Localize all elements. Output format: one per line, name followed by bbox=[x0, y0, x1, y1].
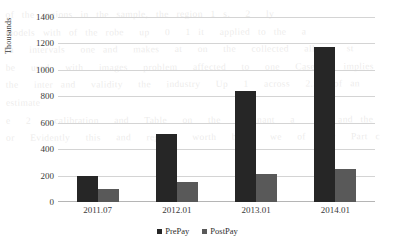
bar-prepay[interactable] bbox=[235, 91, 256, 202]
y-axis-tick-label: 0 bbox=[14, 197, 54, 207]
legend-swatch-icon bbox=[202, 229, 207, 234]
bar-groups bbox=[58, 17, 375, 202]
x-axis-labels: 2011.072012.012013.012014.01 bbox=[58, 205, 375, 215]
x-axis-tick-label: 2013.01 bbox=[217, 205, 296, 215]
y-axis-tick-label: 1000 bbox=[14, 65, 54, 75]
y-axis-tick-label: 1200 bbox=[14, 38, 54, 48]
bar-group bbox=[296, 17, 375, 202]
bar-postpay[interactable] bbox=[256, 174, 277, 202]
bar-prepay[interactable] bbox=[314, 47, 335, 202]
legend-item-prepay[interactable]: PrePay bbox=[157, 226, 189, 236]
y-axis-title: Thousands bbox=[4, 18, 13, 54]
x-axis-tick-label: 2011.07 bbox=[58, 205, 137, 215]
bar-postpay[interactable] bbox=[98, 189, 119, 202]
bar-group bbox=[217, 17, 296, 202]
bar-postpay[interactable] bbox=[335, 169, 356, 202]
x-axis-tick-label: 2014.01 bbox=[296, 205, 375, 215]
bar-group bbox=[137, 17, 216, 202]
legend-label: PostPay bbox=[210, 226, 237, 236]
y-axis-tick-label: 800 bbox=[14, 91, 54, 101]
y-axis-tick-label: 400 bbox=[14, 144, 54, 154]
bar-group bbox=[58, 17, 137, 202]
y-axis-tick-label: 1400 bbox=[14, 12, 54, 22]
y-axis-tick-label: 600 bbox=[14, 118, 54, 128]
x-axis-tick-label: 2012.01 bbox=[137, 205, 216, 215]
legend-item-postpay[interactable]: PostPay bbox=[202, 226, 237, 236]
bar-prepay[interactable] bbox=[77, 176, 98, 202]
legend-label: PrePay bbox=[165, 226, 189, 236]
chart-legend: PrePayPostPay bbox=[0, 226, 395, 236]
bar-prepay[interactable] bbox=[156, 134, 177, 202]
y-axis-tick-label: 200 bbox=[14, 171, 54, 181]
bar-postpay[interactable] bbox=[177, 182, 198, 202]
legend-swatch-icon bbox=[157, 229, 162, 234]
bar-chart: Thousands 0200400600800100012001400 2011… bbox=[0, 0, 395, 249]
